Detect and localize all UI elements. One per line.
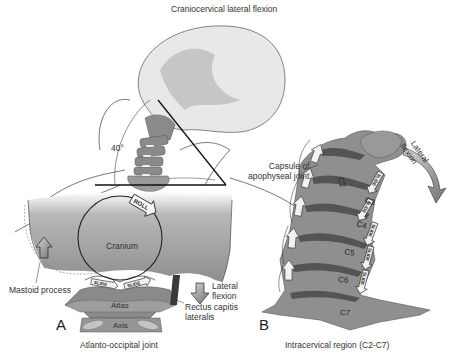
vertebra-c6: C6 [338, 275, 350, 285]
rectus-capitis-lateralis-label: Rectus capitis lateralis [185, 302, 238, 322]
angle-label: 40° [111, 143, 124, 153]
panel-b-letter: B [259, 316, 269, 333]
atlas-label: Atlas [111, 301, 129, 311]
vertebra-c7: C7 [340, 308, 351, 317]
panel-a-caption: Atlanto-occipital joint [80, 340, 158, 350]
rectus-line2: lateralis [185, 312, 238, 322]
slide-label-left: SLIDE [94, 280, 108, 287]
rectus-line1: Rectus capitis [185, 302, 238, 312]
lateral-flexion-a-line1: Lateral [212, 281, 238, 291]
capsule-line2: apophyseal joint [248, 171, 309, 181]
panel-a-letter: A [56, 316, 66, 333]
panel-b-caption: Intracervical region (C2-C7) [285, 340, 389, 350]
cranium-label: Cranium [106, 241, 138, 251]
lateral-flexion-label-a: Lateral flexion [212, 281, 238, 301]
mastoid-process-label: Mastoid process [9, 285, 71, 295]
lateral-flexion-a-line2: flexion [212, 291, 238, 301]
capsule-apophyseal-joint-label: Capsule of apophyseal joint [248, 161, 309, 181]
axis-label: Axis [113, 321, 128, 331]
capsule-line1: Capsule of [248, 161, 309, 171]
